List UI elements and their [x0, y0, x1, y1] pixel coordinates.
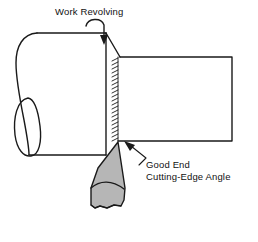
hatch-tick — [112, 94, 118, 97]
hatch-tick — [112, 130, 118, 133]
end-cutting-edge-angle-diagram: Work Revolving Good End Cutting-Edge Ang… — [0, 0, 258, 242]
hatch-tick — [112, 98, 118, 101]
shoulder-chamfer — [106, 33, 120, 57]
cutting-tool-body — [91, 142, 125, 208]
leader-arrow-icon — [124, 141, 146, 165]
leader-line — [131, 146, 146, 165]
machined-surface-hatching — [112, 57, 118, 141]
good-end-label: Good End — [146, 159, 190, 170]
curved-rotation-arrow-icon — [86, 19, 108, 45]
figure-root: Work Revolving Good End Cutting-Edge Ang… — [0, 0, 258, 242]
cutting-edge-angle-label: Cutting-Edge Angle — [146, 171, 231, 182]
hatch-tick — [112, 74, 118, 77]
hatch-tick — [112, 110, 118, 113]
hatch-tick — [112, 62, 118, 65]
hatch-tick — [112, 122, 118, 125]
hatch-tick — [112, 70, 118, 73]
hatch-tick — [112, 86, 118, 89]
hatch-tick — [112, 114, 118, 117]
hatch-tick — [112, 102, 118, 105]
cylinder-end-face-ellipse — [15, 98, 41, 156]
turned-section-outline — [118, 57, 232, 141]
workpiece-small-diameter — [118, 57, 232, 141]
hatch-tick — [112, 134, 118, 137]
hatch-tick — [112, 106, 118, 109]
leader-arrowhead — [124, 141, 135, 151]
chamfer-angled-face — [106, 33, 120, 57]
hatch-tick — [112, 118, 118, 121]
hatch-tick — [112, 82, 118, 85]
hatch-tick — [112, 78, 118, 81]
rotation-arrowhead — [100, 35, 108, 45]
work-revolving-label: Work Revolving — [55, 6, 123, 17]
cylinder-left-outer-arc — [16, 33, 37, 155]
hatch-tick — [112, 66, 118, 69]
hatch-tick — [112, 90, 118, 93]
hatch-tick — [112, 138, 118, 141]
hatch-tick — [112, 126, 118, 129]
hatch-tick — [112, 58, 118, 61]
workpiece-large-diameter — [15, 33, 106, 156]
tool-shank-outline — [91, 142, 125, 208]
